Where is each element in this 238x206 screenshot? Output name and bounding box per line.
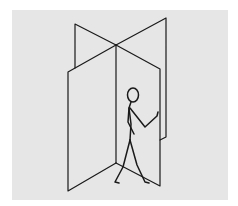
figure-leg-left [115,140,130,183]
front-right-panel [116,45,160,186]
figure-leg-right [130,140,149,183]
figure-arm-right [130,108,158,127]
stick-figure [115,88,158,183]
back-left-panel [75,24,116,68]
figure-head [128,88,139,102]
revolving-door-diagram [0,0,238,206]
